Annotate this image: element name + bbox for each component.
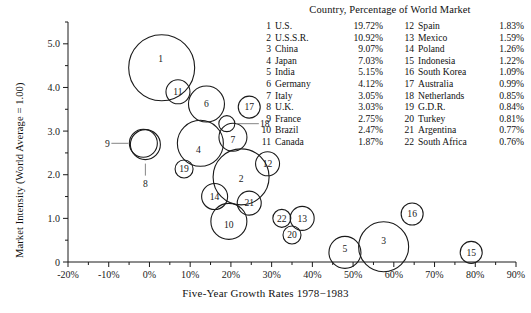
legend-item-percentage: 10.92% — [349, 32, 383, 44]
legend-item: 17Australia0.99% — [397, 78, 524, 90]
legend-item-number: 20 — [397, 113, 418, 125]
legend-item-number: 16 — [397, 66, 418, 78]
bubble-label: 7 — [231, 134, 236, 145]
legend-item-number: 8 — [256, 101, 275, 113]
legend-item: 2U.S.S.R.10.92% — [256, 32, 383, 44]
legend-item-country: Germany — [275, 78, 349, 90]
y-axis-title: Market Intensity (World Average = 1.00) — [14, 82, 25, 258]
legend-item-percentage: 9.07% — [349, 43, 383, 55]
legend-item: 3China9.07% — [256, 43, 383, 55]
bubble-circle[interactable] — [359, 222, 409, 272]
bubble-italy[interactable]: 7 — [219, 123, 247, 151]
x-axis-tick-label: 30% — [262, 269, 280, 280]
y-axis-tick-label: 4.0 — [48, 82, 61, 93]
bubble-label: 21 — [244, 197, 254, 208]
x-axis-tick-label: -10% — [98, 269, 120, 280]
bubble-label: 13 — [297, 213, 307, 224]
legend-item-number: 9 — [256, 113, 275, 125]
bubble-label: 14 — [210, 191, 220, 202]
legend-item: 7Italy3.05% — [256, 90, 383, 102]
legend-item-number: 12 — [397, 20, 418, 32]
bubble-label: 6 — [204, 98, 209, 109]
bubble-u-k[interactable]: 8 — [130, 130, 160, 189]
bubble-south-africa[interactable]: 22 — [273, 209, 291, 227]
bubble-label: 2 — [239, 173, 244, 184]
bubble-label: 8 — [143, 178, 148, 189]
y-axis-tick-label: 2.0 — [48, 169, 61, 180]
legend-item-country: France — [275, 113, 349, 125]
legend-item-country: Turkey — [418, 113, 492, 125]
legend-item-percentage: 2.47% — [349, 124, 383, 136]
legend-item-percentage: 1.83% — [492, 20, 524, 32]
bubble-u-s[interactable]: 1 — [129, 35, 195, 101]
legend-item: 5India5.15% — [256, 66, 383, 78]
x-axis-tick-label: 40% — [303, 269, 321, 280]
legend-item: 22South Africa0.76% — [397, 136, 524, 148]
bubble-label: 15 — [466, 247, 476, 258]
legend-item-number: 21 — [397, 124, 418, 136]
legend-item-percentage: 1.09% — [492, 66, 524, 78]
legend-item-percentage: 19.72% — [349, 20, 383, 32]
bubble-label: 3 — [381, 235, 386, 246]
legend-item-percentage: 0.85% — [492, 90, 524, 102]
bubble-india[interactable]: 5 — [329, 236, 361, 268]
bubble-japan[interactable]: 4 — [177, 120, 223, 166]
bubble-circle[interactable] — [129, 35, 195, 101]
legend-item-country: Japan — [275, 55, 349, 67]
bubble-mexico[interactable]: 13 — [290, 206, 314, 230]
legend-item-percentage: 5.15% — [349, 66, 383, 78]
bubble-south-korea[interactable]: 16 — [401, 203, 423, 225]
legend-item: 11Canada1.87% — [256, 136, 383, 148]
bubble-germany[interactable]: 6 — [188, 86, 224, 122]
legend-item-country: Spain — [418, 20, 492, 32]
legend-item: 9France2.75% — [256, 113, 383, 125]
y-axis-tick-label: 5.0 — [48, 38, 61, 49]
bubble-china[interactable]: 3 — [359, 222, 409, 272]
bubble-turkey[interactable]: 20 — [283, 226, 301, 244]
bubble-brazil[interactable]: 10 — [211, 203, 247, 239]
legend-item: 13Mexico1.59% — [397, 32, 524, 44]
legend-title: Country, Percentage of World Market — [256, 4, 524, 15]
legend-item-number: 1 — [256, 20, 275, 32]
legend-item-country: India — [275, 66, 349, 78]
bubble-label: 10 — [224, 219, 234, 230]
bubble-label: 20 — [287, 229, 297, 240]
bubble-g-d-r[interactable]: 19 — [175, 160, 193, 178]
legend-item-country: Poland — [418, 43, 492, 55]
legend-item-country: U.S. — [275, 20, 349, 32]
legend-item-number: 15 — [397, 55, 418, 67]
bubble-argentina[interactable]: 21 — [237, 191, 261, 215]
legend-item-country: Italy — [275, 90, 349, 102]
legend-item: 20Turkey0.81% — [397, 113, 524, 125]
bubble-label: 11 — [173, 86, 182, 97]
legend-item-percentage: 7.03% — [349, 55, 383, 67]
legend-item: 15Indonesia1.22% — [397, 55, 524, 67]
legend-item-number: 22 — [397, 136, 418, 148]
legend-columns: 1U.S.19.72%2U.S.S.R.10.92%3China9.07%4Ja… — [256, 20, 524, 148]
bubble-circle[interactable] — [129, 129, 157, 157]
legend-item-percentage: 1.22% — [492, 55, 524, 67]
x-axis-tick-label: 10% — [181, 269, 199, 280]
x-axis-tick-label: 50% — [344, 269, 362, 280]
legend-item-percentage: 3.03% — [349, 101, 383, 113]
legend-item-country: Mexico — [418, 32, 492, 44]
legend-item-country: South Africa — [418, 136, 492, 148]
bubble-label: 17 — [244, 101, 254, 112]
legend-item-country: Brazil — [275, 124, 349, 136]
x-axis-tick-label: 80% — [466, 269, 484, 280]
legend-item-number: 13 — [397, 32, 418, 44]
legend-item: 19G.D.R.0.84% — [397, 101, 524, 113]
bubble-canada[interactable]: 11 — [166, 80, 190, 104]
bubble-label: 9 — [105, 138, 110, 149]
bubble-spain[interactable]: 12 — [256, 152, 280, 176]
bubble-label: 16 — [407, 208, 417, 219]
legend-item-number: 10 — [256, 124, 275, 136]
legend-item: 4Japan7.03% — [256, 55, 383, 67]
bubble-indonesia[interactable]: 15 — [460, 241, 482, 263]
bubble-france[interactable]: 9 — [105, 129, 157, 157]
legend-item-percentage: 1.26% — [492, 43, 524, 55]
bubble-u-s-s-r[interactable]: 2 — [213, 149, 269, 205]
legend-item-number: 18 — [397, 90, 418, 102]
legend-item-country: U.K. — [275, 101, 349, 113]
x-axis-tick-label: -20% — [57, 269, 79, 280]
